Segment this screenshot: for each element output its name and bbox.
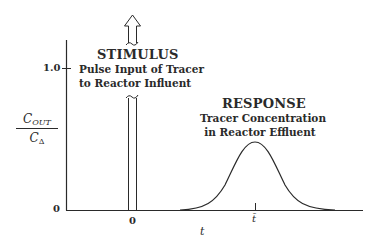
x-axis-label: t: [200, 225, 204, 238]
x-tick-label-0: 0: [129, 215, 136, 226]
y-label-numerator: COUT: [14, 112, 60, 128]
y-label-den-c: C: [30, 131, 39, 145]
stimulus-title: STIMULUS: [97, 47, 179, 62]
x-tick-label-tbar: t̄: [252, 213, 256, 224]
y-tick-label-1: 1.0: [43, 62, 60, 73]
y-axis-label: COUT CΔ: [14, 112, 60, 147]
response-curve: [180, 142, 335, 210]
fraction-bar: [16, 128, 58, 129]
y-tick-label-0: 0: [53, 203, 60, 214]
response-title: RESPONSE: [222, 96, 306, 111]
pulse-break-lower: [126, 95, 138, 98]
y-label-num-c: C: [23, 112, 32, 126]
y-label-num-sub: OUT: [32, 118, 51, 127]
response-line1: Tracer Concentration: [200, 111, 320, 125]
response-line2: in Reactor Effluent: [200, 125, 320, 139]
y-label-denominator: CΔ: [14, 131, 60, 147]
y-label-den-sub: Δ: [39, 137, 45, 146]
stimulus-line1: Pulse Input of Tracer: [79, 62, 189, 76]
pulse-arrow-icon: [125, 15, 141, 43]
stimulus-line2: to Reactor Influent: [79, 76, 189, 90]
